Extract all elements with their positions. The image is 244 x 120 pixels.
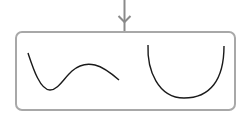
down-arrow-icon	[119, 0, 131, 31]
diagram	[0, 0, 244, 120]
container-box	[16, 32, 235, 110]
wavy-curve	[28, 53, 119, 90]
u-shaped-curve	[148, 45, 224, 98]
